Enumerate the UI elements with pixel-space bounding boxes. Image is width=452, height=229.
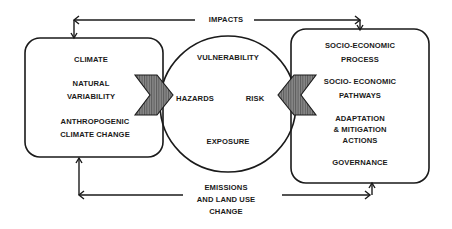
socio-economic-process-label-2: PROCESS — [341, 55, 379, 66]
adaptation-label-3: ACTIONS — [343, 136, 378, 147]
natural-label: NATURAL — [73, 79, 110, 90]
emissions-label-2: AND LAND USE — [197, 195, 256, 206]
socio-economic-pathways-label-1: SOCIO- ECONOMIC — [324, 77, 396, 88]
hazards-label: HAZARDS — [176, 94, 214, 105]
vulnerability-label: VULNERABILITY — [197, 53, 259, 64]
anthropogenic-label: ANTHROPOGENIC — [61, 117, 130, 128]
variability-label: VARIABILITY — [67, 92, 115, 103]
emissions-label-1: EMISSIONS — [204, 183, 247, 194]
adaptation-label-2: & MITIGATION — [334, 125, 387, 136]
hazards-chevron-icon — [135, 75, 173, 115]
risk-label: RISK — [246, 94, 265, 105]
impacts-label: IMPACTS — [209, 15, 243, 26]
emissions-label-3: CHANGE — [209, 207, 243, 218]
socio-economic-process-label-1: SOCIO-ECONOMIC — [325, 41, 395, 52]
socio-economic-pathways-label-2: PATHWAYS — [339, 91, 381, 102]
governance-label: GOVERNANCE — [332, 158, 387, 169]
exposure-label: EXPOSURE — [207, 137, 250, 148]
climate-label: CLIMATE — [74, 55, 108, 66]
climate-change-label: CLIMATE CHANGE — [60, 130, 130, 141]
adaptation-label-1: ADAPTATION — [335, 114, 385, 125]
risk-chevron-icon — [278, 75, 316, 115]
